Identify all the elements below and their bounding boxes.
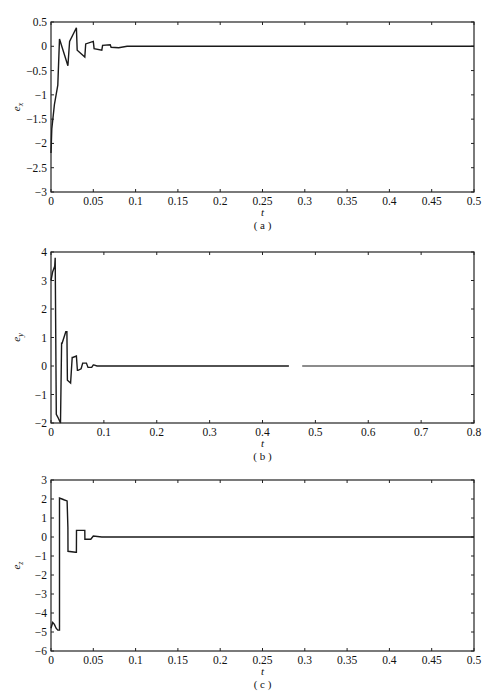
x-tick-label: 0.3 [298, 195, 313, 207]
y-tick-label: −1 [35, 550, 47, 562]
chart-b-svg: 00.10.20.30.40.50.60.70.8−2−101234eyt( b… [0, 232, 497, 464]
x-tick-label: 0.1 [97, 426, 112, 438]
y-tick-label: 1 [41, 332, 47, 344]
y-axis: −2−101234 [35, 246, 474, 429]
y-tick-label: 1 [41, 512, 47, 524]
x-tick-label: 0.1 [128, 654, 143, 666]
x-tick-label: 0.5 [467, 195, 482, 207]
y-axis-label: ex [10, 102, 25, 111]
y-tick-label: 2 [41, 303, 47, 315]
y-tick-label: −2 [35, 137, 47, 149]
x-axis: 00.10.20.30.40.50.60.70.8 [48, 252, 481, 438]
y-tick-label: 2 [41, 493, 47, 505]
x-axis-label: t [261, 206, 265, 218]
x-tick-label: 0.15 [168, 195, 188, 207]
plot-frame [51, 252, 474, 423]
x-axis-label: t [261, 665, 265, 677]
x-tick-label: 0.15 [168, 654, 188, 666]
y-tick-label: −1.5 [26, 113, 47, 125]
figure-caption: ( b ) [253, 450, 272, 463]
y-tick-label: −5 [35, 626, 47, 638]
y-tick-label: −3 [35, 588, 47, 600]
figure-caption: ( a ) [254, 219, 272, 232]
y-tick-label: −2 [35, 417, 47, 429]
x-tick-label: 0.7 [414, 426, 429, 438]
y-tick-label: 0 [41, 531, 47, 543]
x-tick-label: 0.3 [298, 654, 313, 666]
x-tick-label: 0.4 [382, 195, 397, 207]
x-tick-label: 0.05 [83, 654, 103, 666]
x-tick-label: 0 [48, 426, 54, 438]
x-tick-label: 0.4 [382, 654, 397, 666]
x-tick-label: 0.45 [422, 654, 442, 666]
x-tick-label: 0.5 [467, 654, 482, 666]
series-line [51, 258, 289, 423]
y-tick-label: −4 [35, 607, 47, 619]
x-tick-label: 0.05 [83, 195, 103, 207]
x-tick-label: 0.5 [308, 426, 323, 438]
y-tick-label: 0.5 [33, 16, 48, 28]
chart-a-svg: 00.050.10.150.20.250.30.350.40.450.5−3−2… [0, 0, 497, 232]
y-tick-label: 4 [41, 246, 47, 258]
x-axis: 00.050.10.150.20.250.30.350.40.450.5 [48, 22, 481, 207]
x-tick-label: 0.2 [213, 654, 228, 666]
x-tick-label: 0.45 [422, 195, 442, 207]
x-tick-label: 0.35 [337, 195, 357, 207]
x-tick-label: 0.8 [467, 426, 482, 438]
y-tick-label: −1 [35, 389, 47, 401]
x-tick-label: 0.3 [202, 426, 217, 438]
series-line [51, 498, 474, 630]
y-tick-label: 0 [41, 360, 47, 372]
x-tick-label: 0.2 [213, 195, 228, 207]
x-tick-label: 0 [48, 195, 54, 207]
chart-panel-c: 00.050.10.150.20.250.30.350.40.450.5−6−5… [0, 464, 497, 700]
plot-frame [51, 480, 474, 651]
x-tick-label: 0.6 [361, 426, 376, 438]
figure-caption: ( c ) [254, 678, 272, 691]
y-tick-label: −3 [35, 186, 47, 198]
y-tick-label: 0 [41, 40, 47, 52]
y-axis-label: ey [10, 333, 25, 342]
y-tick-label: −1 [35, 89, 47, 101]
y-tick-label: −6 [35, 645, 47, 657]
chart-c-svg: 00.050.10.150.20.250.30.350.40.450.5−6−5… [0, 464, 497, 700]
y-axis-label: ez [10, 561, 25, 570]
x-tick-label: 0.35 [337, 654, 357, 666]
chart-panel-b: 00.10.20.30.40.50.60.70.8−2−101234eyt( b… [0, 232, 497, 464]
y-tick-label: −2.5 [26, 162, 47, 174]
y-tick-label: 3 [41, 474, 47, 486]
y-axis: −6−5−4−3−2−10123 [35, 474, 474, 657]
series-line [51, 28, 474, 153]
x-tick-label: 0 [48, 654, 54, 666]
x-axis: 00.050.10.150.20.250.30.350.40.450.5 [48, 480, 481, 666]
x-tick-label: 0.1 [128, 195, 143, 207]
x-axis-label: t [261, 437, 265, 449]
x-tick-label: 0.2 [150, 426, 165, 438]
chart-panel-a: 00.050.10.150.20.250.30.350.40.450.5−3−2… [0, 0, 497, 232]
y-tick-label: −2 [35, 569, 47, 581]
y-tick-label: −0.5 [26, 65, 47, 77]
y-tick-label: 3 [41, 275, 47, 287]
